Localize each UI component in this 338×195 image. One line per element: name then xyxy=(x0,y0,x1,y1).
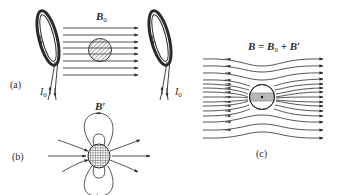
panel-label-a: (a) xyxy=(10,79,21,91)
field-label-b-prime: B′ xyxy=(94,100,105,112)
field-label-b0: B0 xyxy=(95,10,107,24)
panel-label-b: (b) xyxy=(12,151,24,163)
current-label-right: I0 xyxy=(174,86,182,99)
panel-a: B0 (a) I0 I0 xyxy=(10,9,182,100)
panel-b: B′ (b) xyxy=(12,100,150,195)
field-direction-arrows xyxy=(225,59,230,130)
sample-excluded xyxy=(250,85,275,110)
panel-label-c: (c) xyxy=(256,148,267,160)
sample-coil xyxy=(88,144,110,168)
right-coil-icon xyxy=(144,9,175,100)
left-coil-icon xyxy=(32,9,63,100)
current-label-left: I0 xyxy=(39,86,47,99)
magnetic-field-diagram: B0 (a) I0 I0 xyxy=(0,0,338,195)
field-label-total: B = B0 + B′ xyxy=(247,40,300,54)
sample-hatched xyxy=(89,39,112,62)
panel-c: B = B0 + B′ (c) xyxy=(203,40,323,160)
